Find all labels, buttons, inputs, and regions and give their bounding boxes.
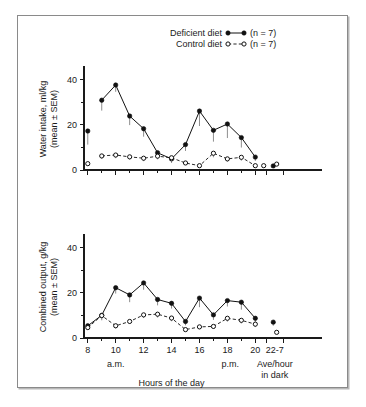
data-point-filled: [113, 83, 117, 87]
data-point-filled: [197, 296, 201, 300]
panel-top: 02040Water intake, ml/kg(mean ± SEM): [38, 66, 322, 175]
data-point-open: [155, 312, 159, 316]
data-point-open: [253, 164, 257, 168]
data-point-open: [155, 154, 159, 158]
data-point-filled: [127, 114, 131, 118]
series-path: [102, 153, 256, 166]
data-point-open: [86, 325, 90, 329]
data-point-open: [225, 157, 229, 161]
data-point-open: [128, 155, 132, 159]
x-tick-label: 8: [85, 345, 90, 355]
panel-bottom: 02040810121416182022-7Combined output, g…: [38, 234, 322, 355]
x-tick-label: 14: [167, 345, 177, 355]
dark-label-line1: Ave/hour: [257, 359, 293, 369]
y-tick-label: 20: [67, 120, 77, 130]
data-point-open: [142, 156, 146, 160]
x-tick-label-dark: 22-7: [266, 345, 284, 355]
x-axis-annotations: a.m.p.m.Ave/hourin darkHours of the day: [107, 359, 293, 388]
data-point-filled: [183, 142, 187, 146]
data-point-filled: [100, 98, 104, 102]
data-point-open: [211, 151, 215, 155]
data-point-filled: [211, 128, 215, 132]
legend: Deficient dietControl diet(n = 7)(n = 7): [170, 28, 276, 49]
data-point-dark-open: [275, 330, 279, 334]
y-tick-label: 40: [67, 75, 77, 85]
x-tick-label: 20: [250, 345, 260, 355]
data-point-dark-filled: [271, 320, 275, 324]
y-tick-label: 40: [67, 243, 77, 253]
legend-control-n: (n = 7): [250, 39, 276, 49]
data-point-open: [183, 161, 187, 165]
data-point-open: [197, 325, 201, 329]
y-tick-label: 20: [67, 288, 77, 298]
pm-label: p.m.: [221, 359, 239, 369]
series-path: [102, 85, 256, 159]
data-point-open: [128, 319, 132, 323]
data-point-filled: [113, 285, 117, 289]
legend-deficient-marker-right: [242, 31, 246, 35]
data-point-open: [239, 318, 243, 322]
data-point-open: [225, 316, 229, 320]
data-point-filled: [155, 297, 159, 301]
data-point-open: [197, 164, 201, 168]
x-axis-title: Hours of the day: [139, 378, 206, 388]
data-point-filled: [86, 129, 90, 133]
chart-canvas: 02040Water intake, ml/kg(mean ± SEM)0204…: [0, 0, 366, 407]
data-point-open: [86, 162, 90, 166]
series-control-bottom: [86, 312, 279, 334]
data-point-filled: [225, 122, 229, 126]
legend-deficient-n: (n = 7): [250, 28, 276, 38]
legend-control-label: Control diet: [176, 39, 223, 49]
data-point-filled: [127, 293, 131, 297]
y-tick-label: 0: [72, 333, 77, 343]
data-point-filled: [141, 127, 145, 131]
y-axis-title-line1: Water intake, ml/kg: [38, 81, 48, 158]
data-point-open: [239, 155, 243, 159]
figure-root: 02040Water intake, ml/kg(mean ± SEM)0204…: [0, 0, 366, 407]
x-tick-label: 10: [111, 345, 121, 355]
y-axis-title-line2: (mean ± SEM): [49, 90, 59, 148]
data-point-open-extra: [262, 164, 266, 168]
data-point-open: [142, 313, 146, 317]
dark-label-line2: in dark: [261, 370, 289, 380]
am-label: a.m.: [107, 359, 125, 369]
x-tick-label: 18: [222, 345, 232, 355]
y-tick-label: 0: [72, 165, 77, 175]
data-point-open: [100, 313, 104, 317]
y-axis-title-line1: Combined output, g/kg: [38, 242, 48, 333]
data-point-open: [183, 328, 187, 332]
data-point-filled: [183, 319, 187, 323]
data-point-filled: [239, 135, 243, 139]
data-point-open: [211, 324, 215, 328]
data-point-open: [100, 154, 104, 158]
legend-deficient-label: Deficient diet: [170, 28, 223, 38]
data-point-dark-open: [275, 162, 279, 166]
series-control-top: [86, 151, 279, 168]
x-tick-label: 16: [194, 345, 204, 355]
data-point-filled: [211, 313, 215, 317]
data-point-open: [114, 324, 118, 328]
data-point-filled: [239, 300, 243, 304]
data-point-filled: [253, 155, 257, 159]
series-deficient-bottom: [86, 281, 276, 329]
legend-control-marker-left: [226, 42, 230, 46]
legend-control-marker-right: [242, 42, 246, 46]
y-axis-title-line2: (mean ± SEM): [49, 258, 59, 316]
data-point-filled: [141, 281, 145, 285]
data-point-open: [114, 153, 118, 157]
data-point-filled: [253, 316, 257, 320]
data-point-filled: [197, 109, 201, 113]
x-tick-label: 12: [139, 345, 149, 355]
data-point-open: [253, 322, 257, 326]
data-point-open: [169, 156, 173, 160]
data-point-filled: [169, 301, 173, 305]
data-point-open: [169, 316, 173, 320]
legend-deficient-marker-left: [226, 31, 230, 35]
data-point-filled: [225, 298, 229, 302]
